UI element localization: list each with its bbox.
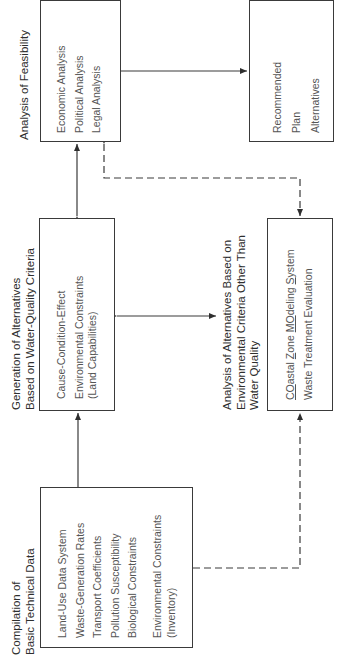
heading-line: Basic Technical Data	[24, 548, 38, 655]
feasibility-box: Economic Analysis Political Analysis Leg…	[40, 0, 121, 142]
text-part: S	[284, 277, 296, 284]
spacer	[142, 515, 150, 638]
czm-box: COastal Zone MOdeling System Waste Treat…	[267, 218, 333, 411]
text-part: ystem	[284, 249, 296, 277]
heading-line: Based on Water-Quality Criteria	[24, 248, 38, 410]
item-inventory: (Inventory)	[164, 515, 178, 638]
item-transport: Transport Coefficients	[89, 515, 107, 638]
item-pollution: Pollution Susceptibility	[107, 515, 125, 638]
heading-line: Analysis of Alternatives Based on	[221, 235, 235, 410]
dashed-feasibility-environmental	[104, 144, 300, 216]
text-part: MO	[284, 315, 296, 332]
dashed-compilation-to-environmental	[193, 413, 300, 568]
item-biological: Biological Constraints	[124, 515, 142, 638]
generation-heading: Generation of Alternatives Based on Wate…	[8, 218, 36, 411]
text-part: CO	[284, 384, 296, 400]
item-env-constraints-inventory: Environmental Constraints	[150, 515, 164, 638]
item-economic: Economic Analysis	[53, 45, 71, 133]
compilation-box: Land-Use Data System Waste-Generation Ra…	[40, 487, 193, 648]
item-land-use: Land-Use Data System	[54, 515, 72, 638]
compilation-heading: Compilation of Basic Technical Data	[8, 487, 38, 657]
item-cause-condition-effect: Cause-Condition-Effect	[53, 276, 71, 399]
text-part: Z	[284, 353, 296, 359]
recommended-box: Recommended Plan Alternatives	[249, 0, 334, 142]
heading-line: Compilation of	[10, 548, 24, 655]
item-political: Political Analysis	[71, 45, 89, 133]
item-coastal-zone-modeling-system: COastal Zone MOdeling System	[282, 249, 300, 400]
item-plan: Plan	[287, 62, 306, 133]
item-waste-treatment: Waste Treatment Evaluation	[300, 249, 318, 400]
item-waste-generation: Waste-Generation Rates	[72, 515, 90, 638]
item-recommended: Recommended	[268, 62, 287, 133]
generation-box: Cause-Condition-Effect Environmental Con…	[39, 218, 115, 411]
item-legal: Legal Analysis	[88, 45, 106, 133]
text-part: astal	[284, 359, 296, 384]
heading-line: Environmental Criteria Other Than	[235, 235, 249, 410]
heading-line: Analysis of Feasibility	[18, 30, 32, 140]
feasibility-heading: Analysis of Feasibility	[14, 0, 36, 142]
heading-line: Generation of Alternatives	[10, 248, 24, 410]
text-part: deling	[284, 284, 296, 315]
text-part: one	[284, 332, 296, 352]
item-alternatives: Alternatives	[306, 62, 325, 133]
environmental-heading: Analysis of Alternatives Based on Enviro…	[220, 200, 264, 410]
heading-line: Water Quality	[248, 235, 262, 410]
